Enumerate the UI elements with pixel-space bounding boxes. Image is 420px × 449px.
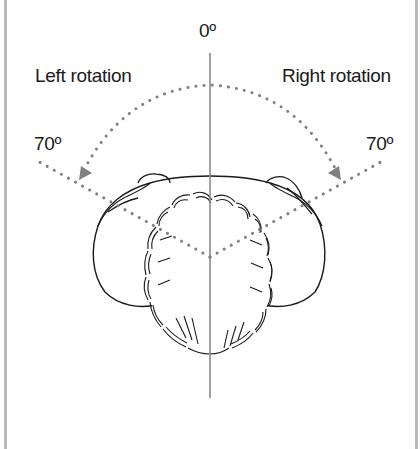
right-rotation-label: Right rotation	[282, 65, 391, 87]
right-angle-label: 70º	[366, 133, 393, 155]
neutral-angle-label: 0º	[199, 20, 216, 42]
diagram-frame: 0º Left rotation Right rotation 70º 70º	[0, 0, 420, 449]
left-angle-label: 70º	[34, 133, 61, 155]
left-arrowhead-icon	[79, 166, 92, 180]
left-rotation-label: Left rotation	[35, 65, 131, 87]
